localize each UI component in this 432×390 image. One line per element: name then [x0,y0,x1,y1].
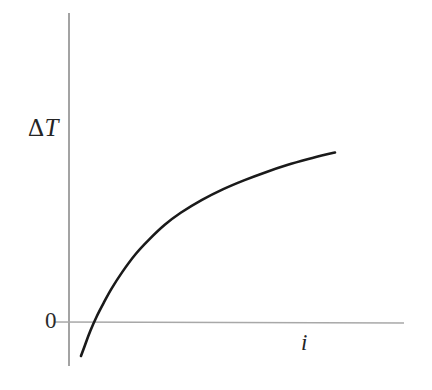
figure-container: ΔT i 0 [0,0,432,390]
x-axis-line [55,322,404,323]
origin-label: 0 [45,308,57,334]
temperature-symbol: T [45,114,59,141]
delta-symbol: Δ [28,114,45,141]
y-axis-label: ΔT [28,114,59,142]
x-axis-label: i [301,330,307,356]
plot-canvas [0,0,432,390]
data-curve [81,153,335,356]
